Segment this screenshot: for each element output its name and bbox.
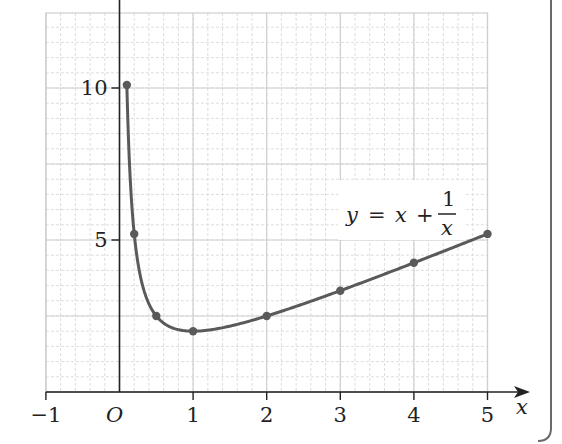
data-point bbox=[483, 230, 491, 238]
x-tick-label: 1 bbox=[186, 403, 199, 427]
eq-numerator: 1 bbox=[442, 187, 455, 211]
eq-lhs: y bbox=[345, 203, 359, 227]
y-tick-label: 10 bbox=[81, 76, 108, 100]
data-point bbox=[123, 81, 131, 89]
panel-border bbox=[538, 0, 551, 441]
origin-label: O bbox=[106, 403, 123, 427]
x-tick-label: 4 bbox=[407, 403, 420, 427]
x-tick-label: 3 bbox=[334, 403, 347, 427]
x-tick-label: 5 bbox=[481, 403, 494, 427]
data-point bbox=[130, 230, 138, 238]
chart: −112345510 y = x + 1 x O x bbox=[0, 0, 562, 444]
eq-equals: = bbox=[368, 203, 386, 227]
tick-labels: −112345510 bbox=[30, 76, 494, 427]
data-point bbox=[152, 312, 160, 320]
equation-annotation: y = x + 1 x bbox=[338, 180, 466, 240]
data-point bbox=[263, 312, 271, 320]
eq-plus: + bbox=[416, 203, 434, 227]
data-point bbox=[410, 259, 418, 267]
x-tick-label: 2 bbox=[260, 403, 273, 427]
eq-x: x bbox=[395, 203, 407, 227]
data-point bbox=[336, 287, 344, 295]
y-tick-label: 5 bbox=[94, 228, 107, 252]
eq-denominator: x bbox=[441, 216, 453, 240]
x-axis-label: x bbox=[516, 395, 528, 419]
data-point bbox=[189, 327, 197, 335]
x-tick-label: −1 bbox=[30, 403, 61, 427]
